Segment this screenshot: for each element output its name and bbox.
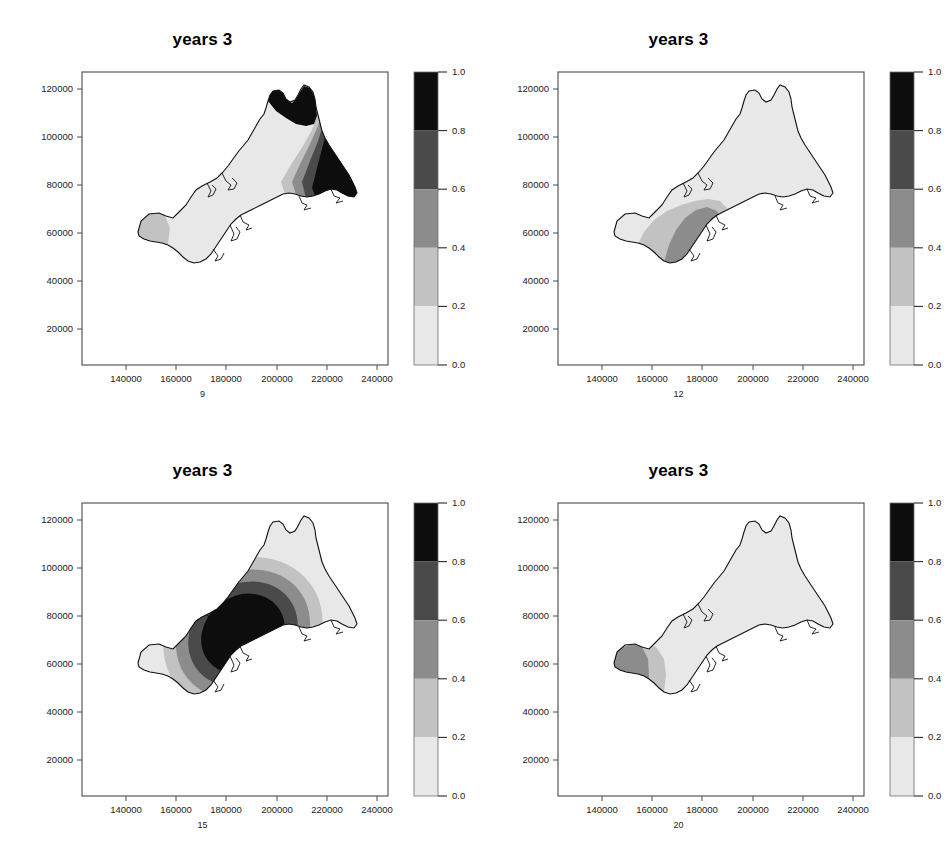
x-tick-label: 140000 bbox=[110, 373, 142, 384]
y-tick-label: 20000 bbox=[523, 323, 549, 334]
y-tick-label: 100000 bbox=[517, 562, 549, 573]
colorbar-tick-label: 0.6 bbox=[452, 183, 465, 194]
y-tick-label: 20000 bbox=[47, 323, 73, 334]
x-tick-label: 140000 bbox=[586, 804, 618, 815]
colorbar-tick-label: 1.0 bbox=[928, 66, 941, 77]
colorbar: 1.0 0.8 0.6 0.4 0.2 0.0 bbox=[414, 497, 465, 801]
map-panel-15: years 3 15 bbox=[0, 431, 475, 862]
plot-area: 140000 160000 180000 200000 220000 24000… bbox=[0, 0, 475, 431]
x-tick-label: 200000 bbox=[737, 373, 769, 384]
colorbar-tick-label: 0.2 bbox=[452, 300, 465, 311]
x-tick-label: 180000 bbox=[686, 804, 718, 815]
colorbar-tick-label: 1.0 bbox=[452, 497, 465, 508]
colorbar-tick-label: 0.2 bbox=[928, 300, 941, 311]
x-tick-label: 220000 bbox=[787, 804, 819, 815]
colorbar: 1.0 0.8 0.6 0.4 0.2 0.0 bbox=[414, 66, 465, 370]
y-tick-label: 80000 bbox=[47, 610, 73, 621]
y-tick-label: 20000 bbox=[47, 754, 73, 765]
x-tick-label: 180000 bbox=[210, 373, 242, 384]
figure-canvas: years 3 9 bbox=[0, 0, 951, 862]
y-axis: 20000 40000 60000 80000 100000 120000 bbox=[517, 514, 558, 765]
y-axis: 20000 40000 60000 80000 100000 120000 bbox=[41, 83, 82, 334]
colorbar-tick-label: 0.2 bbox=[452, 731, 465, 742]
x-tick-label: 220000 bbox=[311, 373, 343, 384]
y-tick-label: 40000 bbox=[47, 706, 73, 717]
x-tick-label: 220000 bbox=[311, 804, 343, 815]
colorbar-tick-label: 0.6 bbox=[452, 614, 465, 625]
map-panel-20: years 3 20 bbox=[476, 431, 951, 862]
x-tick-label: 180000 bbox=[210, 804, 242, 815]
colorbar-tick-label: 0.4 bbox=[452, 242, 465, 253]
colorbar-tick-label: 0.8 bbox=[452, 556, 465, 567]
y-tick-label: 100000 bbox=[41, 131, 73, 142]
x-tick-label: 240000 bbox=[361, 804, 393, 815]
x-axis: 140000 160000 180000 200000 220000 24000… bbox=[586, 365, 869, 384]
map-panel-9: years 3 9 bbox=[0, 0, 475, 431]
x-tick-label: 160000 bbox=[160, 804, 192, 815]
y-tick-label: 20000 bbox=[523, 754, 549, 765]
colorbar-tick-label: 0.0 bbox=[928, 790, 941, 801]
colorbar-tick-label: 0.8 bbox=[928, 125, 941, 136]
colorbar-tick-label: 0.4 bbox=[928, 242, 941, 253]
colorbar-tick-label: 0.2 bbox=[928, 731, 941, 742]
x-tick-label: 140000 bbox=[110, 804, 142, 815]
x-tick-label: 180000 bbox=[686, 373, 718, 384]
y-tick-label: 80000 bbox=[47, 179, 73, 190]
x-axis: 140000 160000 180000 200000 220000 24000… bbox=[110, 796, 393, 815]
x-tick-label: 160000 bbox=[160, 373, 192, 384]
colorbar: 1.0 0.8 0.6 0.4 0.2 0.0 bbox=[890, 497, 941, 801]
y-tick-label: 40000 bbox=[523, 706, 549, 717]
plot-area: 140000 160000 180000 200000 220000 24000… bbox=[476, 0, 951, 431]
y-axis: 20000 40000 60000 80000 100000 120000 bbox=[517, 83, 558, 334]
y-tick-label: 120000 bbox=[41, 83, 73, 94]
y-tick-label: 120000 bbox=[41, 514, 73, 525]
y-tick-label: 80000 bbox=[523, 179, 549, 190]
colorbar-tick-label: 0.0 bbox=[452, 790, 465, 801]
colorbar-tick-label: 0.8 bbox=[928, 556, 941, 567]
y-tick-label: 100000 bbox=[41, 562, 73, 573]
colorbar-tick-label: 1.0 bbox=[928, 497, 941, 508]
colorbar-tick-label: 0.0 bbox=[928, 359, 941, 370]
x-tick-label: 140000 bbox=[586, 373, 618, 384]
colorbar-tick-label: 0.0 bbox=[452, 359, 465, 370]
x-tick-label: 200000 bbox=[737, 804, 769, 815]
x-tick-label: 160000 bbox=[636, 373, 668, 384]
colorbar: 1.0 0.8 0.6 0.4 0.2 0.0 bbox=[890, 66, 941, 370]
y-tick-label: 60000 bbox=[523, 658, 549, 669]
y-tick-label: 80000 bbox=[523, 610, 549, 621]
plot-area: 140000 160000 180000 200000 220000 24000… bbox=[0, 431, 475, 862]
colorbar-tick-label: 0.6 bbox=[928, 614, 941, 625]
x-tick-label: 220000 bbox=[787, 373, 819, 384]
y-tick-label: 40000 bbox=[47, 275, 73, 286]
x-tick-label: 200000 bbox=[261, 804, 293, 815]
y-tick-label: 40000 bbox=[523, 275, 549, 286]
y-tick-label: 120000 bbox=[517, 514, 549, 525]
x-axis: 140000 160000 180000 200000 220000 24000… bbox=[110, 365, 393, 384]
y-tick-label: 100000 bbox=[517, 131, 549, 142]
map-panel-12: years 3 12 bbox=[476, 0, 951, 431]
y-axis: 20000 40000 60000 80000 100000 120000 bbox=[41, 514, 82, 765]
x-tick-label: 200000 bbox=[261, 373, 293, 384]
x-tick-label: 240000 bbox=[837, 804, 869, 815]
y-tick-label: 60000 bbox=[47, 227, 73, 238]
y-tick-label: 60000 bbox=[523, 227, 549, 238]
y-tick-label: 60000 bbox=[47, 658, 73, 669]
y-tick-label: 120000 bbox=[517, 83, 549, 94]
plot-area: 140000 160000 180000 200000 220000 24000… bbox=[476, 431, 951, 862]
colorbar-tick-label: 1.0 bbox=[452, 66, 465, 77]
x-tick-label: 240000 bbox=[837, 373, 869, 384]
x-tick-label: 160000 bbox=[636, 804, 668, 815]
colorbar-tick-label: 0.8 bbox=[452, 125, 465, 136]
x-axis: 140000 160000 180000 200000 220000 24000… bbox=[586, 796, 869, 815]
colorbar-tick-label: 0.4 bbox=[928, 673, 941, 684]
x-tick-label: 240000 bbox=[361, 373, 393, 384]
colorbar-tick-label: 0.6 bbox=[928, 183, 941, 194]
colorbar-tick-label: 0.4 bbox=[452, 673, 465, 684]
